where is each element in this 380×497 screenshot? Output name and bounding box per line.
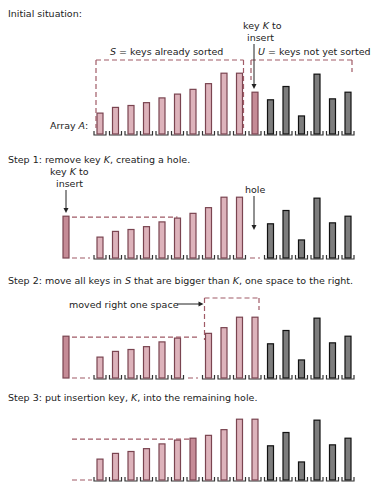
bar bbox=[268, 224, 274, 258]
bar bbox=[237, 419, 243, 480]
bar bbox=[113, 231, 119, 258]
bar bbox=[206, 333, 212, 378]
bar bbox=[175, 218, 181, 258]
bar bbox=[144, 449, 150, 480]
bar bbox=[283, 433, 289, 481]
bar bbox=[268, 100, 274, 134]
bar bbox=[159, 342, 165, 378]
bar bbox=[299, 360, 305, 378]
bar bbox=[63, 216, 69, 258]
bar bbox=[175, 440, 181, 480]
bar bbox=[314, 198, 320, 258]
bar bbox=[330, 343, 336, 378]
bar bbox=[345, 216, 351, 258]
bar bbox=[221, 73, 227, 134]
bar bbox=[221, 328, 227, 378]
arrowhead-icon bbox=[199, 302, 204, 307]
bar bbox=[237, 197, 243, 258]
bar bbox=[345, 438, 351, 480]
arrowhead-icon bbox=[64, 208, 69, 213]
bar bbox=[97, 237, 103, 258]
bar bbox=[144, 347, 150, 378]
bar bbox=[330, 99, 336, 134]
bar bbox=[113, 351, 119, 378]
bar bbox=[128, 230, 134, 259]
bar bbox=[345, 336, 351, 378]
bar bbox=[206, 435, 212, 480]
arrowhead-icon bbox=[252, 84, 257, 89]
bar bbox=[283, 87, 289, 135]
bar bbox=[97, 113, 103, 134]
bar bbox=[190, 89, 196, 134]
bar bbox=[330, 445, 336, 480]
bar bbox=[97, 357, 103, 378]
bar bbox=[159, 98, 165, 134]
bar bbox=[63, 336, 69, 378]
bar bbox=[206, 84, 212, 134]
bar bbox=[190, 213, 196, 258]
bar bbox=[299, 462, 305, 480]
bar bbox=[144, 227, 150, 258]
bar bbox=[299, 240, 305, 258]
bar bbox=[299, 116, 305, 134]
bar bbox=[175, 338, 181, 378]
bar bbox=[237, 73, 243, 134]
bar bbox=[159, 222, 165, 258]
bar bbox=[190, 438, 196, 480]
bar bbox=[128, 350, 134, 379]
bar bbox=[268, 446, 274, 480]
bar bbox=[221, 430, 227, 480]
bar bbox=[314, 318, 320, 378]
bar bbox=[314, 420, 320, 480]
insertion-sort-diagram bbox=[0, 0, 380, 497]
bar bbox=[113, 453, 119, 480]
arrowhead-icon bbox=[252, 225, 257, 230]
bar bbox=[237, 317, 243, 378]
bar bbox=[345, 92, 351, 134]
bar bbox=[113, 107, 119, 134]
bar bbox=[330, 223, 336, 258]
bar bbox=[268, 344, 274, 378]
bar bbox=[159, 444, 165, 480]
bar bbox=[175, 94, 181, 134]
bar bbox=[283, 331, 289, 379]
bar bbox=[252, 419, 258, 480]
bar bbox=[283, 211, 289, 259]
bar bbox=[128, 452, 134, 481]
bar bbox=[128, 106, 134, 135]
bar bbox=[314, 74, 320, 134]
bar bbox=[144, 103, 150, 134]
bar bbox=[252, 92, 258, 134]
bar bbox=[252, 317, 258, 378]
bar bbox=[221, 197, 227, 258]
bar bbox=[97, 459, 103, 480]
bar bbox=[206, 208, 212, 258]
